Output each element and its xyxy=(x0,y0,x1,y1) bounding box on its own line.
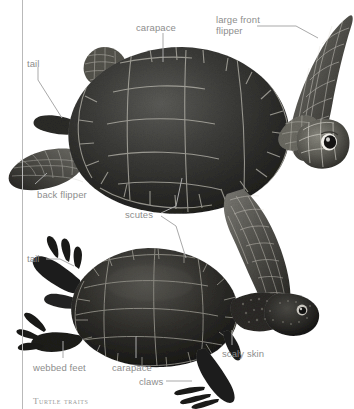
label-carapace-top: carapace xyxy=(136,22,176,33)
label-claws: claws xyxy=(139,376,163,387)
label-tail-bottom: tail xyxy=(27,253,40,264)
label-large-front-flipper: large front flipper xyxy=(216,14,260,36)
label-scaly-skin: scaly skin xyxy=(222,348,264,359)
turtle-illustration xyxy=(0,0,354,409)
label-back-flipper: back flipper xyxy=(37,189,87,200)
label-carapace-bottom: carapace xyxy=(112,362,152,373)
figure-caption: Turtle traits xyxy=(33,396,89,406)
label-scutes: scutes xyxy=(125,209,153,220)
label-webbed-feet: webbed feet xyxy=(33,362,86,373)
figure-turtle-traits: carapace large front flipper tail back f… xyxy=(0,0,354,409)
label-tail-top: tail xyxy=(27,58,40,69)
left-vertical-rule xyxy=(22,0,23,409)
